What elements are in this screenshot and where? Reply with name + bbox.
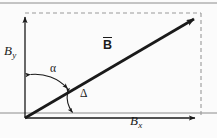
angle-alpha-arc xyxy=(31,74,68,88)
diagram-canvas xyxy=(0,0,217,138)
label-y-component-subscript: y xyxy=(12,50,16,60)
label-y-component-base: B xyxy=(4,43,12,58)
label-vector-B: B xyxy=(103,37,112,52)
label-x-component-subscript: x xyxy=(138,120,142,130)
label-vector-B-text: B xyxy=(103,38,112,52)
label-angle-alpha: α xyxy=(50,63,56,75)
label-y-component: By xyxy=(4,44,16,60)
vector-diagram-figure: By Bx B α Δ xyxy=(0,0,217,138)
label-x-component-base: B xyxy=(130,113,138,128)
label-x-component: Bx xyxy=(130,114,142,130)
angle-delta-arc xyxy=(67,93,72,113)
label-angle-delta: Δ xyxy=(80,88,87,100)
